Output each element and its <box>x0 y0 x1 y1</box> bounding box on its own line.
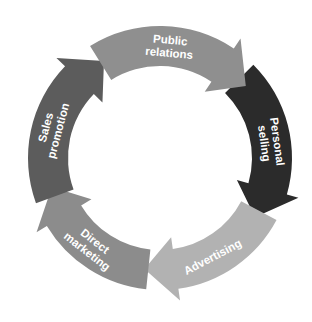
cycle-canvas: PersonalsellingAdvertisingDirectmarketin… <box>0 0 312 322</box>
cycle-segment-public-relations: Publicrelations <box>90 26 246 92</box>
cycle-segment-advertising: Advertising <box>144 201 276 300</box>
cycle-segment-sales-promotion: Salespromotion <box>28 58 104 203</box>
cycle-segment-personal-selling: Personalselling <box>225 65 298 218</box>
promotion-mix-cycle-diagram: PersonalsellingAdvertisingDirectmarketin… <box>0 0 312 322</box>
cycle-segment-direct-marketing: Directmarketing <box>37 187 151 289</box>
